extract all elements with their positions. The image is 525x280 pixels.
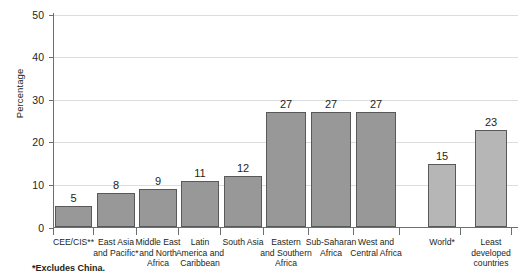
y-tick-mark [49,185,54,186]
x-axis-label-line: developed [458,248,524,259]
y-tick-mark [49,142,54,143]
gridline [54,15,518,16]
bar [475,130,507,228]
y-tick-mark [49,15,54,16]
bar-chart: Percentage 50403020100 58911122727271523… [0,0,525,280]
x-tick-mark [263,228,264,235]
y-tick-label: 20 [18,137,44,148]
x-axis-label: Leastdevelopedcountries [458,237,524,269]
x-axis-label-line: countries [458,258,524,269]
x-tick-mark [220,228,221,235]
x-tick-mark [178,228,179,235]
y-tick-label: 50 [18,10,44,21]
x-axis-label-line: Central Africa [343,248,409,259]
y-tick-label: 0 [18,223,44,234]
y-tick-label: 30 [18,95,44,106]
y-tick-mark [49,100,54,101]
y-tick-label: 10 [18,180,44,191]
bar-value-label: 15 [414,151,470,162]
footnote: *Excludes China. [32,263,105,273]
x-tick-mark [511,228,512,235]
x-axis-label-line: Least [458,237,524,248]
bar [97,193,135,227]
bar [139,189,177,227]
x-tick-mark [53,228,54,235]
x-tick-mark [353,228,354,235]
x-tick-mark [460,228,461,235]
bar [311,112,351,227]
bar-value-label: 23 [461,117,521,128]
x-tick-mark [136,228,137,235]
x-tick-mark [308,228,309,235]
x-tick-mark [93,228,94,235]
x-axis-label-line: Caribbean [167,258,233,269]
x-axis-label-line: West and [343,237,409,248]
x-axis-label-line: Africa [253,258,319,269]
bar [55,206,92,227]
y-tick-label: 40 [18,52,44,63]
x-tick-mark [399,228,400,235]
x-axis-label-line: America and [167,248,233,259]
bar [428,164,456,228]
gridline [54,57,518,58]
bar [356,112,396,227]
x-axis-label: West andCentral Africa [343,237,409,258]
y-tick-mark [49,57,54,58]
bar-value-label: 27 [342,99,410,110]
bar [224,176,262,227]
bar [266,112,306,227]
bar [181,181,219,228]
